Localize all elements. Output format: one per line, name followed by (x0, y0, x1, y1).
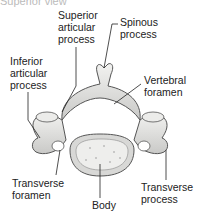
label-spinous-process: Spinousprocess (120, 16, 158, 40)
label-transverse-process: Transverseprocess (141, 181, 193, 205)
label-inferior-articular-process: Inferiorarticularprocess (10, 55, 47, 91)
label-vertebral-foramen: Vertebralforamen (144, 74, 186, 98)
label-body: Body (92, 199, 116, 211)
label-transverse-foramen: Transverseforamen (12, 177, 64, 201)
label-superior-articular-process: Superiorarticularprocess (58, 9, 98, 45)
